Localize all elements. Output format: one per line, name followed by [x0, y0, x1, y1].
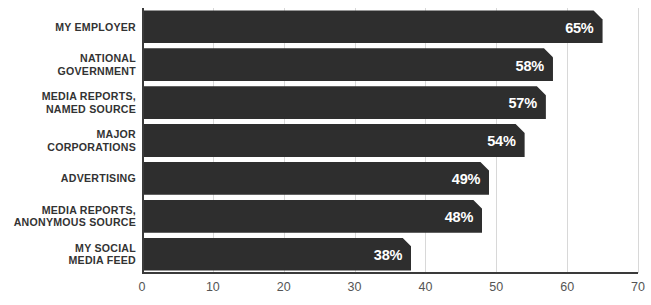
category-label-line: MEDIA REPORTS, — [0, 204, 136, 217]
x-tick-label: 50 — [489, 280, 503, 294]
bar: 49% — [142, 162, 489, 195]
bar-value-label: 48% — [445, 208, 473, 225]
bar: 57% — [142, 86, 546, 119]
x-tick-label: 20 — [277, 280, 291, 294]
x-tick-label: 60 — [560, 280, 574, 294]
category-label-line: CORPORATIONS — [0, 141, 136, 154]
category-label-line: MEDIA REPORTS, — [0, 90, 136, 103]
bar-row: 54% — [142, 124, 525, 157]
category-label: NATIONALGOVERNMENT — [0, 52, 136, 77]
category-label-line: NAMED SOURCE — [0, 103, 136, 116]
category-label-line: MAJOR — [0, 128, 136, 141]
category-label-line: GOVERNMENT — [0, 65, 136, 78]
bar-value-label: 54% — [487, 132, 515, 149]
bar-value-label: 65% — [565, 19, 593, 36]
category-axis-labels: MY EMPLOYERNATIONALGOVERNMENTMEDIA REPOR… — [0, 8, 136, 273]
bar-value-label: 49% — [452, 170, 480, 187]
bar: 58% — [142, 48, 553, 81]
bar: 54% — [142, 124, 525, 157]
bar-value-label: 57% — [508, 94, 536, 111]
bar-row: 48% — [142, 200, 482, 233]
category-label: MEDIA REPORTS,NAMED SOURCE — [0, 90, 136, 115]
bar: 38% — [142, 238, 411, 271]
category-label: MAJORCORPORATIONS — [0, 128, 136, 153]
bars-layer: 65%58%57%54%49%48%38% — [142, 8, 638, 273]
category-label: ADVERTISING — [0, 172, 136, 185]
category-label-line: ADVERTISING — [0, 172, 136, 185]
x-tick-label: 40 — [418, 280, 432, 294]
category-label-line: ANONYMOUS SOURCE — [0, 216, 136, 229]
gridline-70 — [638, 8, 639, 273]
bar-row: 49% — [142, 162, 489, 195]
x-tick-label: 10 — [206, 280, 220, 294]
plot-area: 65%58%57%54%49%48%38% — [142, 8, 638, 273]
category-label: MY EMPLOYER — [0, 21, 136, 34]
x-tick-label: 70 — [631, 280, 645, 294]
bar-value-label: 38% — [374, 246, 402, 263]
category-label-line: NATIONAL — [0, 52, 136, 65]
y-axis-line — [142, 8, 144, 273]
bar-row: 65% — [142, 10, 603, 43]
bar: 65% — [142, 10, 603, 43]
category-label-line: MY EMPLOYER — [0, 21, 136, 34]
x-tick-label: 0 — [139, 280, 146, 294]
category-label-line: MEDIA FEED — [0, 254, 136, 267]
category-label-line: MY SOCIAL — [0, 242, 136, 255]
bar: 48% — [142, 200, 482, 233]
x-tick-label: 30 — [348, 280, 362, 294]
category-label: MEDIA REPORTS,ANONYMOUS SOURCE — [0, 204, 136, 229]
category-label: MY SOCIALMEDIA FEED — [0, 242, 136, 267]
bar-row: 58% — [142, 48, 553, 81]
bar-row: 38% — [142, 238, 411, 271]
bar-row: 57% — [142, 86, 546, 119]
bar-value-label: 58% — [516, 57, 544, 74]
x-axis-tick-labels: 010203040506070 — [142, 280, 638, 302]
bar-chart: 65%58%57%54%49%48%38% MY EMPLOYERNATIONA… — [0, 0, 651, 305]
